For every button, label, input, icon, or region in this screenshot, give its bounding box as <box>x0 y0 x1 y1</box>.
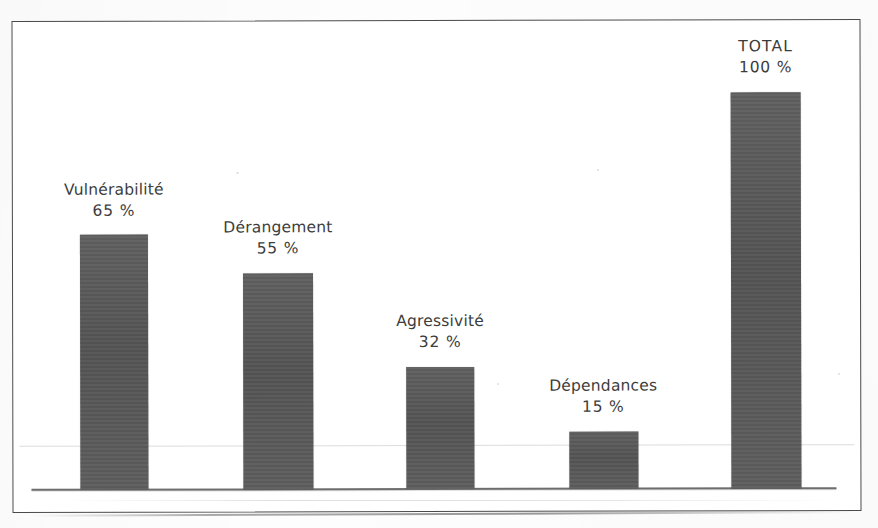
bar-derangement[interactable] <box>243 273 313 489</box>
bar-dependances[interactable] <box>569 432 638 489</box>
bar-label-name: Agressivité <box>396 312 484 330</box>
bar-label-total: TOTAL 100 % <box>686 36 846 78</box>
bar-label-name: Dépendances <box>549 377 657 395</box>
bar-label-value: 100 % <box>686 57 846 78</box>
plot-area: Vulnérabilité 65 % Dérangement 55 % Agre… <box>12 20 860 512</box>
bar-label-value: 15 % <box>523 396 683 417</box>
bar-label-value: 55 % <box>198 238 358 259</box>
bar-label-agressivite: Agressivité 32 % <box>360 311 520 353</box>
bar-label-name: Dérangement <box>223 218 332 236</box>
bar-agressivite[interactable] <box>406 367 474 489</box>
bar-label-name: Vulnérabilité <box>64 181 164 199</box>
bar-label-dependances: Dépendances 15 % <box>523 375 683 417</box>
bar-label-value: 65 % <box>34 201 194 222</box>
bar-total[interactable] <box>731 92 802 488</box>
bar-label-name: TOTAL <box>738 37 793 55</box>
chart-frame: Vulnérabilité 65 % Dérangement 55 % Agre… <box>11 19 861 513</box>
scanned-page: Vulnérabilité 65 % Dérangement 55 % Agre… <box>0 0 878 528</box>
bar-label-vulnerabilite: Vulnérabilité 65 % <box>34 180 194 222</box>
bar-label-value: 32 % <box>360 332 520 353</box>
bar-label-derangement: Dérangement 55 % <box>198 217 358 259</box>
bar-vulnerabilite[interactable] <box>80 235 149 490</box>
